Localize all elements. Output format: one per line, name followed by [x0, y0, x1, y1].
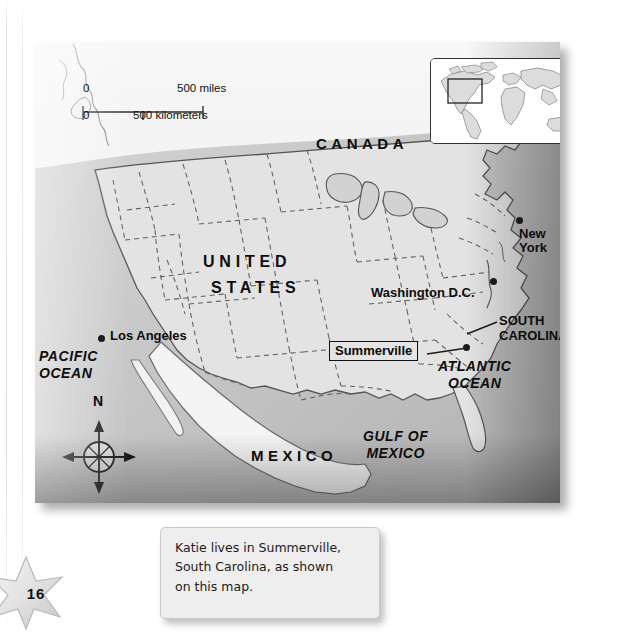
ocean-pacific-line1: PACIFIC — [39, 348, 98, 364]
world-locator-inset[interactable] — [430, 58, 560, 144]
city-label-washington-dc: Washington D.C. — [371, 286, 475, 300]
new-york-line2: York — [519, 240, 547, 255]
ocean-label-pacific: PACIFIC OCEAN — [39, 348, 98, 381]
country-label-canada: CANADA — [316, 136, 408, 152]
compass-north-label: N — [93, 394, 103, 409]
map-scale-bar: 0 500 miles 0 500 kilometers — [115, 90, 265, 135]
ocean-pacific-line2: OCEAN — [39, 365, 92, 381]
state-label-south-carolina: SOUTH CAROLINA — [499, 314, 560, 343]
scale-miles-end: 500 miles — [177, 82, 226, 94]
callout-summerville[interactable]: Summerville — [329, 341, 418, 361]
scale-km-end: 500 kilometers — [133, 109, 208, 121]
ocean-atlantic-line2: OCEAN — [448, 375, 501, 391]
scale-km-start: 0 — [83, 109, 89, 121]
city-dot-summerville — [463, 344, 470, 351]
country-label-states: STATES — [211, 280, 301, 297]
country-label-mexico: MEXICO — [251, 448, 337, 464]
scale-miles-start: 0 — [83, 82, 89, 94]
world-inset-art — [431, 59, 560, 143]
city-label-new-york: New York — [519, 227, 547, 254]
page-margin-rule-inner — [22, 0, 23, 641]
city-label-los-angeles: Los Angeles — [110, 329, 187, 343]
south-carolina-line2: CAROLINA — [499, 328, 560, 343]
map-plate[interactable]: 0 500 miles 0 500 kilometers — [35, 42, 560, 503]
page-margin-rule-outer — [6, 0, 7, 641]
caption-panel: Katie lives in Summerville, South Caroli… — [160, 527, 380, 619]
page-number-star: 16 — [0, 555, 66, 631]
ocean-label-atlantic: ATLANTIC OCEAN — [438, 358, 511, 391]
caption-line-1: Katie lives in Summerville, — [175, 538, 369, 557]
caption-line-3: on this map. — [175, 577, 369, 596]
gulf-line1: GULF OF — [363, 428, 428, 444]
city-dot-los-angeles — [98, 335, 105, 342]
city-dot-new-york — [516, 217, 523, 224]
country-label-united: UNITED — [203, 254, 291, 271]
caption-text: Katie lives in Summerville, South Caroli… — [175, 538, 369, 596]
ocean-label-gulf-of-mexico: GULF OF MEXICO — [363, 428, 428, 461]
south-carolina-line1: SOUTH — [499, 313, 545, 328]
gulf-line2: MEXICO — [366, 445, 425, 461]
caption-line-2: South Carolina, as shown — [175, 557, 369, 576]
city-dot-washington-dc — [490, 278, 497, 285]
ocean-atlantic-line1: ATLANTIC — [438, 358, 511, 374]
page-number-label: 16 — [16, 585, 56, 602]
